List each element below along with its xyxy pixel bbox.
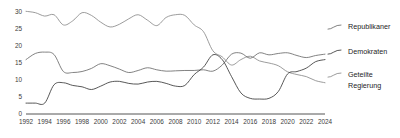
x-tick-label: 1992 [19, 118, 34, 125]
y-tick-label: 10 [15, 76, 23, 83]
y-tick-label: 15 [15, 59, 23, 66]
x-tick-label: 2008 [168, 118, 183, 125]
series-line-demokraten [26, 55, 325, 105]
x-tick-label: 2016 [243, 118, 258, 125]
y-tick-label: 20 [15, 42, 23, 49]
line-chart-figure: 30 25 20 15 10 5 0 199219941996199820002… [0, 0, 400, 138]
x-tick-label: 2010 [187, 118, 202, 125]
x-tick-label: 2004 [131, 118, 146, 125]
y-axis-tick-labels: 30 25 20 15 10 5 0 [15, 8, 23, 117]
y-tick-label: 25 [15, 25, 23, 32]
x-tick-label: 2002 [112, 118, 127, 125]
x-tick-label: 2020 [281, 118, 296, 125]
x-tick-label: 1998 [75, 118, 90, 125]
legend-label-republikaner: Republikaner [348, 22, 391, 31]
legend-swatch-republikaner [328, 25, 341, 29]
legend: Republikaner Demokraten Geteilte Regieru… [328, 22, 391, 90]
series-line-republikaner [26, 52, 325, 73]
x-tick-label: 2006 [150, 118, 165, 125]
x-tick-label: 2024 [318, 118, 333, 125]
x-tick-label: 2014 [224, 118, 239, 125]
x-axis-tick-labels: 1992199419961998200020022004200620082010… [19, 118, 333, 125]
x-tick-label: 1996 [56, 118, 71, 125]
legend-label-geteilte-regierung: Geteilte [348, 70, 373, 79]
y-tick-label: 30 [15, 8, 23, 15]
legend-label-demokraten: Demokraten [348, 47, 387, 56]
series-line-geteilte-regierung [26, 11, 325, 82]
legend-swatch-geteilte-regierung [328, 73, 341, 77]
chart-plot-svg: 30 25 20 15 10 5 0 199219941996199820002… [0, 0, 400, 138]
y-tick-label: 0 [18, 110, 22, 117]
x-tick-label: 2018 [262, 118, 277, 125]
y-tick-label: 5 [18, 93, 22, 100]
series-layer [26, 11, 325, 104]
legend-label-geteilte-regierung-line2: Regierung [348, 81, 381, 90]
x-tick-label: 2022 [299, 118, 314, 125]
x-tick-label: 1994 [38, 118, 53, 125]
x-tick-label: 2000 [94, 118, 109, 125]
legend-swatch-demokraten [328, 50, 341, 54]
x-tick-label: 2012 [206, 118, 221, 125]
